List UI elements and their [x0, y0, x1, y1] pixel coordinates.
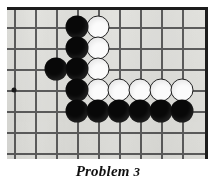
grid-line-vertical-2	[56, 10, 58, 159]
caption-number: 3	[134, 164, 141, 179]
black-stone	[171, 100, 194, 123]
grid-line-vertical-0	[14, 10, 16, 159]
black-stone	[45, 58, 68, 81]
white-stone	[87, 79, 110, 102]
white-stone	[108, 79, 131, 102]
white-stone	[87, 16, 110, 39]
figure-caption: Problem 3	[0, 163, 216, 180]
white-stone	[150, 79, 173, 102]
black-stone	[108, 100, 131, 123]
black-stone	[129, 100, 152, 123]
black-stone	[87, 100, 110, 123]
white-stone	[87, 37, 110, 60]
black-stone	[66, 16, 89, 39]
white-stone	[87, 58, 110, 81]
black-stone	[66, 37, 89, 60]
white-stone	[129, 79, 152, 102]
white-stone	[171, 79, 194, 102]
black-stone	[150, 100, 173, 123]
grid-line-vertical-1	[35, 10, 37, 159]
black-stone	[66, 79, 89, 102]
figure-container: Problem 3	[0, 0, 216, 192]
black-stone	[66, 58, 89, 81]
go-board	[7, 7, 208, 159]
black-stone	[66, 100, 89, 123]
grid-line-horizontal-5	[7, 132, 205, 134]
caption-label: Problem	[76, 163, 130, 179]
grid-line-horizontal-6	[7, 153, 205, 155]
star-point-0	[12, 88, 17, 93]
